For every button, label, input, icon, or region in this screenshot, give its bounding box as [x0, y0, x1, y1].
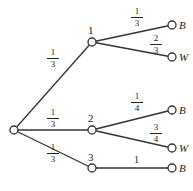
node-3: [88, 164, 96, 172]
prob-2-W: 3 4: [150, 123, 162, 144]
node-label-3: 3: [88, 152, 94, 163]
leaf-label-2W: W: [179, 143, 188, 154]
leaf-node-2B: [168, 106, 176, 114]
prob-2-B: 1 4: [131, 92, 143, 113]
tree-edges: [0, 0, 193, 191]
node-2: [88, 126, 96, 134]
leaf-node-1B: [168, 21, 176, 29]
leaf-label-1W: W: [179, 52, 188, 63]
node-label-2: 2: [88, 113, 94, 124]
root-node: [10, 126, 18, 134]
node-1: [88, 38, 96, 46]
prob-1-B: 1 3: [131, 7, 143, 28]
leaf-label-3B: B: [179, 163, 186, 174]
leaf-node-1W: [168, 53, 176, 61]
leaf-label-1B: B: [179, 20, 186, 31]
node-label-1: 1: [88, 25, 94, 36]
leaf-label-2B: B: [179, 105, 186, 116]
prob-root-3: 1 3: [47, 143, 59, 164]
prob-root-2: 1 3: [47, 108, 59, 129]
prob-root-1: 1 3: [47, 48, 59, 69]
prob-3-B: 1: [134, 154, 139, 165]
leaf-node-3B: [168, 164, 176, 172]
leaf-node-2W: [168, 144, 176, 152]
prob-1-W: 2 3: [150, 34, 162, 55]
